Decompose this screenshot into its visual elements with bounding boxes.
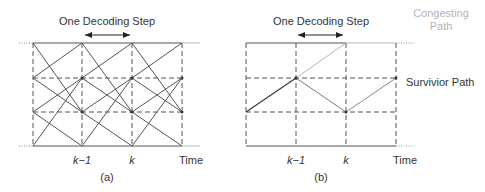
survivor-path-segment: [346, 78, 396, 112]
survivor-path-segment: [296, 78, 346, 112]
panel-a-caption: (a): [100, 171, 113, 183]
congesting-path-label-line2: Path: [430, 20, 453, 32]
label-k: k: [343, 154, 349, 166]
panel-a-title: One Decoding Step: [59, 15, 155, 27]
label-k-minus-1: k−1: [73, 154, 91, 166]
label-k-minus-1: k−1: [287, 154, 305, 166]
panel-b-title: One Decoding Step: [273, 15, 369, 27]
label-k: k: [129, 154, 135, 166]
label-time: Time: [393, 154, 417, 166]
survivor-path-segment: [246, 78, 296, 112]
panel-b: One Decoding Step Congesting Path Surviv…: [246, 7, 474, 183]
panel-a: One Decoding Step: [19, 15, 203, 183]
trellis-transitions: [33, 43, 182, 146]
survivor-path-label: Survivior Path: [406, 76, 474, 88]
label-time: Time: [179, 154, 203, 166]
congesting-path-label-line1: Congesting: [413, 7, 469, 19]
congesting-path-segment: [296, 43, 346, 78]
trellis-diagram-figure: One Decoding Step: [0, 0, 485, 192]
panel-b-caption: (b): [314, 171, 327, 183]
